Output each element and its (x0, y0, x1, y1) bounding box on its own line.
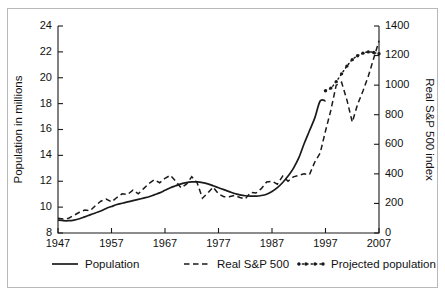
series-marker (324, 89, 327, 92)
chart-area: 8101214161820222402004006008001000120014… (8, 9, 439, 289)
legend-marker (313, 262, 316, 265)
legend-marker (297, 262, 300, 265)
y-axis-tick-label: 10 (40, 200, 52, 212)
x-axis-tick-label: 1957 (99, 237, 123, 249)
y2-axis-tick-label: 800 (385, 108, 403, 120)
x-axis-tick-label: 1977 (206, 237, 230, 249)
y-axis-tick-label: 12 (40, 174, 52, 186)
legend-marker (321, 262, 324, 265)
chart-svg: 8101214161820222402004006008001000120014… (8, 9, 439, 289)
y-axis-tick-label: 20 (40, 71, 52, 83)
y2-axis-tick-label: 1000 (385, 78, 409, 90)
series-marker (361, 51, 364, 54)
series-marker (356, 54, 359, 57)
series-marker (377, 52, 380, 55)
figure-frame: 8101214161820222402004006008001000120014… (7, 8, 438, 288)
series-marker (367, 50, 370, 53)
series-line-real-s-p-500 (58, 41, 379, 219)
legend-marker (304, 262, 307, 265)
y2-axis-tick-label: 200 (385, 196, 403, 208)
series-line-projected-population (326, 52, 380, 91)
x-axis-tick-label: 1987 (260, 237, 284, 249)
y-axis-tick-label: 22 (40, 45, 52, 57)
y2-axis-tick-label: 1400 (385, 19, 409, 31)
legend-label-3: Projected population (331, 258, 436, 270)
y-axis-tick-label: 14 (40, 148, 52, 160)
x-axis-tick-label: 1947 (46, 237, 70, 249)
y-axis-tick-label: 24 (40, 19, 52, 31)
series-marker (329, 86, 332, 89)
plot-frame (58, 26, 379, 233)
y2-axis-tick-label: 1200 (385, 48, 409, 60)
x-axis-tick-label: 1967 (153, 237, 177, 249)
y-axis-tick-label: 18 (40, 97, 52, 109)
y-axis-tick-label: 16 (40, 122, 52, 134)
legend-label-1: Population (85, 258, 139, 270)
y2-axis-tick-label: 400 (385, 167, 403, 179)
y2-axis-tick-label: 600 (385, 137, 403, 149)
series-marker (351, 58, 354, 61)
series-marker (340, 72, 343, 75)
series-marker (372, 51, 375, 54)
series-marker (335, 80, 338, 83)
x-axis-tick-label: 2007 (367, 237, 391, 249)
x-axis-tick-label: 1997 (313, 237, 337, 249)
legend-label-2: Real S&P 500 (217, 258, 289, 270)
series-marker (345, 64, 348, 67)
y-axis-title: Population in millions (12, 75, 24, 183)
y2-axis-title: Real S&P 500 index (424, 78, 436, 181)
